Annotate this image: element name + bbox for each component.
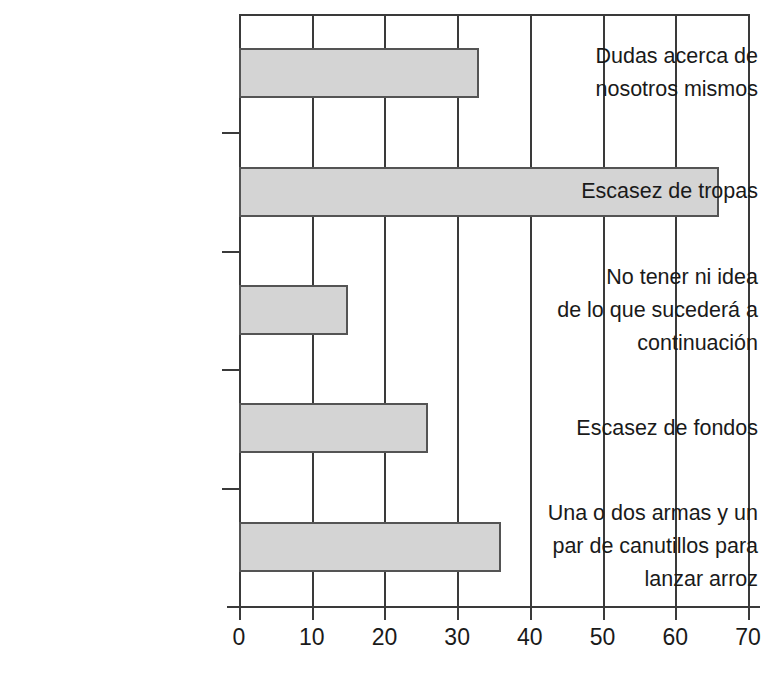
x-tick-50 xyxy=(603,606,605,620)
category-label: Dudas acerca denosotros mismos xyxy=(544,40,772,106)
bar-chart: 010203040506070 Dudas acerca denosotros … xyxy=(0,0,772,677)
x-tick-label-60: 60 xyxy=(645,624,705,651)
gridline-40 xyxy=(530,14,532,606)
category-label-line: par de canutillos para xyxy=(544,530,758,563)
x-tick-label-50: 50 xyxy=(573,624,633,651)
x-tick-30 xyxy=(457,606,459,620)
category-label-line: Dudas acerca de xyxy=(544,40,758,73)
x-tick-label-10: 10 xyxy=(282,624,342,651)
gridline-30 xyxy=(457,14,459,606)
category-label: Escasez de fondos xyxy=(544,412,772,445)
category-label-line: continuación xyxy=(544,327,758,360)
x-tick-label-0: 0 xyxy=(209,624,269,651)
bar xyxy=(239,48,479,98)
x-tick-70 xyxy=(748,606,750,620)
category-label: Escasez de tropas xyxy=(544,175,772,208)
x-tick-label-40: 40 xyxy=(500,624,560,651)
category-label-line: Una o dos armas y un xyxy=(544,497,758,530)
x-tick-label-70: 70 xyxy=(718,624,772,651)
gridline-20 xyxy=(384,14,386,606)
x-tick-label-30: 30 xyxy=(427,624,487,651)
x-tick-20 xyxy=(384,606,386,620)
bar xyxy=(239,285,348,335)
x-tick-40 xyxy=(530,606,532,620)
category-separator-tick xyxy=(222,251,239,253)
plot-top-border xyxy=(239,14,748,16)
category-label-line: No tener ni idea xyxy=(544,261,758,294)
category-label-line: Escasez de tropas xyxy=(544,175,758,208)
bar xyxy=(239,522,501,572)
x-tick-label-20: 20 xyxy=(354,624,414,651)
category-separator-tick xyxy=(222,132,239,134)
x-tick-60 xyxy=(675,606,677,620)
category-label-line: de lo que sucederá a xyxy=(544,294,758,327)
x-tick-0 xyxy=(239,606,241,620)
bar xyxy=(239,403,428,453)
category-label-line: nosotros mismos xyxy=(544,73,758,106)
category-separator-tick xyxy=(222,369,239,371)
category-label-line: Escasez de fondos xyxy=(544,412,758,445)
category-separator-tick xyxy=(222,488,239,490)
category-label: Una o dos armas y unpar de canutillos pa… xyxy=(544,497,772,596)
category-label-line: lanzar arroz xyxy=(544,563,758,596)
category-label: No tener ni ideade lo que sucederá acont… xyxy=(544,261,772,360)
x-tick-10 xyxy=(312,606,314,620)
x-axis-line xyxy=(227,606,760,608)
